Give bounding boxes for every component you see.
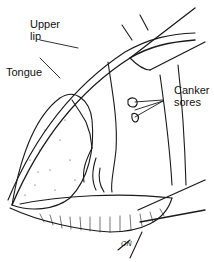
label-canker-line2: sores bbox=[174, 96, 209, 108]
label-canker-line1: Canker bbox=[174, 84, 209, 96]
label-upper-lip: Upper lip bbox=[30, 18, 60, 42]
leader-canker-1 bbox=[135, 100, 163, 102]
label-canker-sores: Canker sores bbox=[174, 84, 209, 108]
leader-tongue bbox=[40, 58, 60, 78]
upper-lip-outline bbox=[12, 40, 195, 205]
artist-signature: ON bbox=[121, 238, 132, 250]
tongue-outline bbox=[12, 94, 93, 209]
lower-lip-outline bbox=[10, 198, 172, 232]
label-upper-lip-line2: lip bbox=[30, 30, 60, 42]
canker-sore-2 bbox=[132, 113, 139, 122]
canker-sore-1 bbox=[128, 98, 137, 107]
label-tongue: Tongue bbox=[6, 66, 42, 78]
label-upper-lip-line1: Upper bbox=[30, 18, 60, 30]
